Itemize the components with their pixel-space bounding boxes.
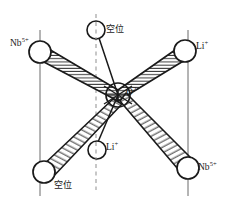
atom-li-upper-right xyxy=(174,40,196,62)
atom-li-bottom xyxy=(88,141,106,159)
label-li-upper-right: Li+ xyxy=(196,42,208,52)
label-oxygen-center: O2- xyxy=(126,88,138,98)
defect-structure-figure: Nb5+ Li+ 空位 O2- Li+ 空位 Nb5+ xyxy=(0,0,229,205)
charge-superscript: 5+ xyxy=(210,160,217,167)
atom-nb-lower-right xyxy=(177,157,199,179)
atom-vacancy-lower-left xyxy=(33,161,55,183)
charge-superscript: + xyxy=(114,140,118,147)
bond-cones xyxy=(40,43,195,180)
label-vacancy-bottom: 空位 xyxy=(54,181,72,190)
label-li-bottom: Li+ xyxy=(106,143,118,153)
charge-superscript: 2- xyxy=(133,85,138,92)
label-vacancy-top: 空位 xyxy=(106,25,124,34)
atom-nb-upper-left xyxy=(29,41,51,63)
charge-superscript: + xyxy=(204,39,208,46)
label-nb-upper-left: Nb5+ xyxy=(10,39,29,49)
charge-superscript: 5+ xyxy=(22,36,29,43)
label-nb-lower-right: Nb5+ xyxy=(198,163,217,173)
